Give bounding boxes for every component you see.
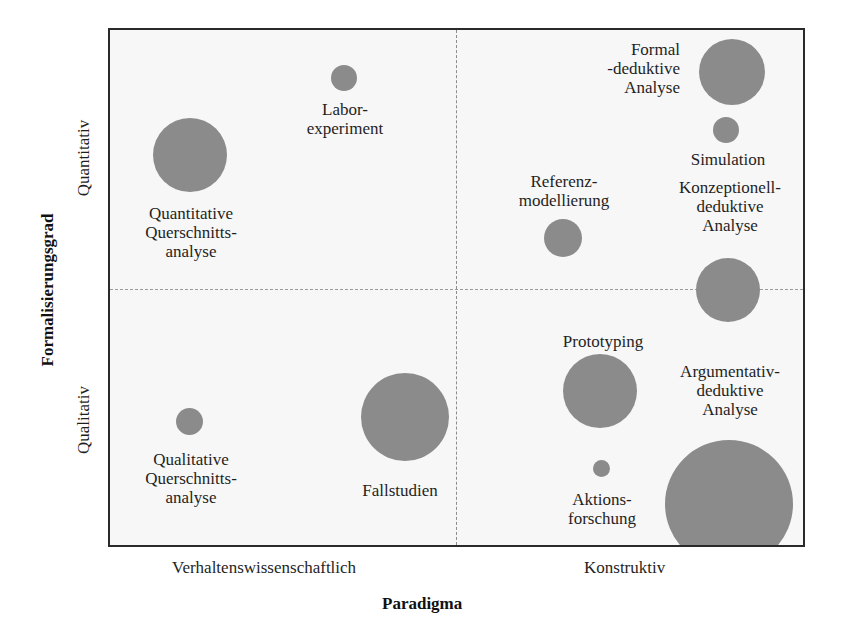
bubble-simulation [713,117,739,143]
bubble-formal-deduktive-analyse [699,39,765,105]
label-laborexperiment: Labor- experiment [300,100,390,138]
bubble-konzeptionell-deduktive-analyse [696,258,760,322]
label-argumentativ-deduktive-analyse: Argumentativ- deduktive Analyse [664,362,796,419]
label-qualitative-querschnittsanalyse: Qualitative Querschnitts- analyse [130,450,252,507]
label-aktionsforschung: Aktions- forschung [552,490,652,528]
label-referenzmodellierung: Referenz- modellierung [508,172,620,210]
bubble-qualitative-querschnittsanalyse [176,408,203,435]
x-axis-title: Paradigma [382,594,462,614]
y-axis-title: Formalisierungsgrad [38,214,58,367]
label-konzeptionell-deduktive-analyse: Konzeptionell- deduktive Analyse [664,178,796,235]
bubble-prototyping [563,354,637,428]
x-category-verhaltenswissenschaftlich: Verhaltenswissenschaftlich [172,558,356,578]
bubble-fallstudien [361,373,449,461]
y-category-quantitativ: Quantitativ [74,120,94,196]
label-prototyping: Prototyping [555,332,651,351]
label-quantitative-querschnittsanalyse: Quantitative Querschnitts- analyse [130,204,252,261]
x-category-konstruktiv: Konstruktiv [584,558,665,578]
label-fallstudien: Fallstudien [350,481,450,500]
bubble-aktionsforschung [593,460,610,477]
bubble-quantitative-querschnittsanalyse [153,118,227,192]
bubble-laborexperiment [331,65,357,91]
bubble-referenzmodellierung [544,219,582,257]
bubble-argumentativ-deduktive-analyse [665,440,793,547]
label-formal-deduktive-analyse: Formal -deduktive Analyse [590,40,680,97]
y-category-qualitativ: Qualitativ [74,386,94,454]
vertical-quadrant-divider [456,30,457,545]
label-simulation: Simulation [680,150,776,169]
